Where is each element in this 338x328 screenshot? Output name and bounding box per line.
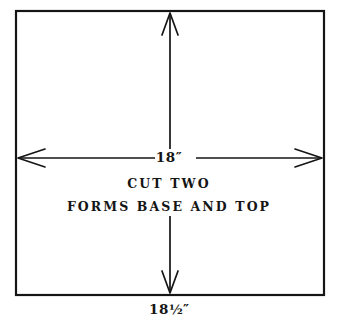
note-line-forms-base-and-top: FORMS BASE AND TOP <box>0 199 338 214</box>
width-dimension-label: 18″ <box>0 149 338 165</box>
height-value-prime: ″ <box>183 301 189 317</box>
height-value-fraction: ½ <box>169 302 183 317</box>
height-value-whole: 18 <box>149 301 169 317</box>
height-dimension-label: 18½″ <box>0 301 338 317</box>
dimension-diagram: 18″ CUT TWO FORMS BASE AND TOP 18½″ <box>0 0 338 328</box>
note-line-cut-two: CUT TWO <box>0 176 338 191</box>
